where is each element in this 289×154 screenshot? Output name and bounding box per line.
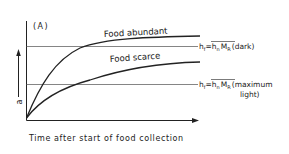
diagram: a (A) Food abundant Food scarce hf=hnMR(…: [0, 0, 289, 154]
curve-food-abundant: [27, 36, 201, 118]
x-axis-label: Time after start of food collection: [28, 134, 184, 143]
reference-label-max-light: hf=hnMR(maximum light): [199, 80, 272, 100]
svg-text:light): light): [240, 90, 260, 99]
curve-label-food-scarce: Food scarce: [109, 50, 160, 64]
svg-text:hf=hnMR(maximum: hf=hnMR(maximum: [199, 80, 272, 90]
y-axis-label: a: [15, 99, 24, 104]
svg-text:hf=hnMR(dark): hf=hnMR(dark): [199, 42, 254, 52]
x-axis-arrow-icon: [192, 118, 199, 123]
up-arrow-icon: [16, 49, 21, 56]
panel-label: (A): [33, 22, 49, 31]
reference-label-dark: hf=hnMR(dark): [199, 42, 254, 52]
